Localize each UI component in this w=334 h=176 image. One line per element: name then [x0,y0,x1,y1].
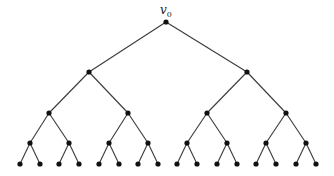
tree-edge [286,113,306,143]
tree-edge [166,22,247,72]
tree-node [204,110,209,115]
tree-edge [266,113,286,143]
tree-edge [89,72,128,113]
tree-node [66,140,71,145]
leaf-node [214,161,219,166]
tree-node [106,140,111,145]
root-label-subscript: 0 [167,10,172,19]
tree-node [46,110,51,115]
tree-node [145,140,150,145]
leaf-node [37,161,42,166]
leaf-node [96,161,101,166]
binary-tree-diagram: v0 [0,0,334,176]
tree-node [27,140,32,145]
tree-edge [128,113,148,143]
tree-edge [148,143,158,164]
leaf-node [155,161,160,166]
tree-edge [227,143,237,164]
tree-edge [109,113,128,143]
leaf-node [234,161,239,166]
tree-edge [99,143,109,164]
leaf-node [194,161,199,166]
tree-node [283,110,288,115]
tree-nodes [17,19,318,166]
tree-edge [296,143,306,164]
tree-edge [89,22,166,72]
tree-edge [256,143,266,164]
root-label: v0 [160,3,172,19]
root-node [163,19,168,24]
tree-node [224,140,229,145]
tree-edge [20,143,30,164]
tree-edge [69,143,79,164]
tree-edge [247,72,286,113]
leaf-node [253,161,258,166]
tree-edge [30,113,49,143]
tree-edges [20,22,316,164]
leaf-node [17,161,22,166]
leaf-node [293,161,298,166]
tree-edge [109,143,119,164]
tree-edge [207,113,227,143]
tree-edge [177,143,187,164]
tree-node [86,69,91,74]
tree-node [125,110,130,115]
tree-edge [49,113,69,143]
leaf-node [273,161,278,166]
leaf-node [56,161,61,166]
tree-edge [49,72,89,113]
tree-edge [187,143,197,164]
tree-svg: v0 [0,0,334,176]
tree-edge [187,113,207,143]
tree-node [244,69,249,74]
tree-node [303,140,308,145]
tree-edge [30,143,40,164]
tree-edge [217,143,227,164]
tree-node [263,140,268,145]
tree-edge [306,143,316,164]
leaf-node [174,161,179,166]
leaf-node [313,161,318,166]
tree-edge [207,72,247,113]
leaf-node [135,161,140,166]
tree-edge [59,143,69,164]
tree-edge [266,143,276,164]
leaf-node [76,161,81,166]
tree-node [184,140,189,145]
tree-edge [138,143,148,164]
leaf-node [116,161,121,166]
